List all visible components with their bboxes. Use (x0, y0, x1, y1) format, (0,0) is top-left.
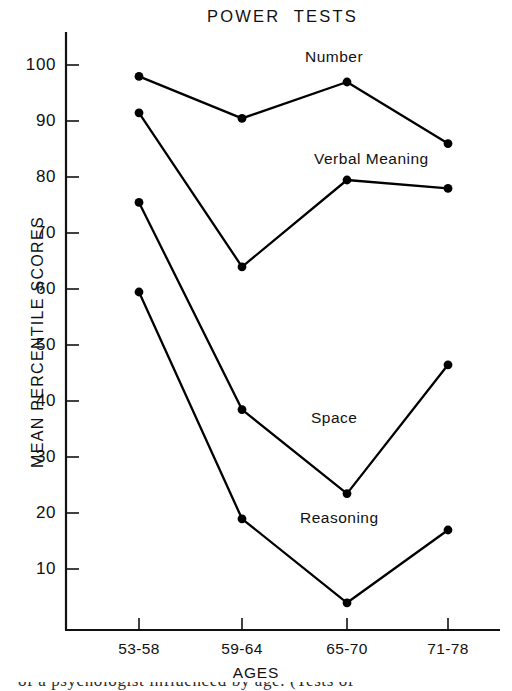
series-verbal-meaning (135, 108, 453, 271)
series-layer (135, 72, 453, 607)
data-point (444, 526, 453, 535)
data-point (343, 176, 352, 185)
series-line (139, 113, 448, 267)
plot-area (0, 0, 512, 691)
data-point (238, 262, 247, 271)
data-point (238, 114, 247, 123)
data-point (444, 184, 453, 193)
data-point (343, 78, 352, 87)
data-point (135, 72, 144, 81)
data-point (343, 489, 352, 498)
body-text-line: of a psychologist influenced by age. (Te… (18, 682, 354, 691)
series-reasoning (135, 288, 453, 608)
y-axis-ticks (66, 65, 79, 569)
series-line (139, 76, 448, 143)
series-line (139, 292, 448, 603)
data-point (135, 288, 144, 297)
data-point (343, 598, 352, 607)
series-line (139, 202, 448, 493)
data-point (238, 405, 247, 414)
page-body-text-fragment: of a psychologist influenced by age. (Te… (0, 682, 512, 691)
data-point (238, 514, 247, 523)
series-number (135, 72, 453, 148)
series-space (135, 198, 453, 498)
figure-power-tests: POWER TESTS MEAN PERCENTILE SCORES AGES … (0, 0, 512, 691)
x-axis-ticks (139, 618, 448, 630)
data-point (135, 108, 144, 117)
data-point (444, 139, 453, 148)
data-point (135, 198, 144, 207)
data-point (444, 360, 453, 369)
